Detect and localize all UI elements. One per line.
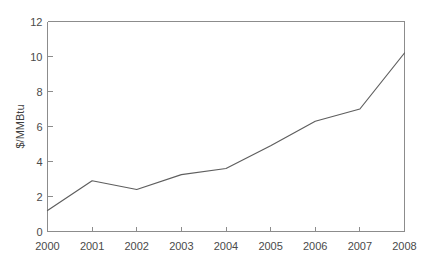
x-tick-label: 2006 <box>303 240 327 252</box>
y-tick-label: 10 <box>30 51 42 63</box>
chart-ticks <box>48 22 405 232</box>
y-axis-title: $/MMBtu <box>14 104 26 148</box>
line-chart: 024681012 200020012002200320042005200620… <box>0 0 427 265</box>
y-tick-label: 12 <box>30 16 42 28</box>
x-tick-label: 2002 <box>125 240 149 252</box>
chart-figure: 024681012 200020012002200320042005200620… <box>0 0 427 265</box>
y-tick-label: 0 <box>36 226 42 238</box>
x-axis-tick-labels: 200020012002200320042005200620072008 <box>35 240 416 252</box>
chart-axes <box>48 22 405 232</box>
y-tick-label: 2 <box>36 191 42 203</box>
x-tick-label: 2007 <box>348 240 372 252</box>
y-tick-label: 6 <box>36 121 42 133</box>
y-tick-label: 8 <box>36 86 42 98</box>
x-tick-label: 2005 <box>258 240 282 252</box>
x-tick-label: 2003 <box>169 240 193 252</box>
y-axis-title-text: $/MMBtu <box>14 104 26 148</box>
data-series-group <box>48 53 405 211</box>
x-tick-label: 2008 <box>392 240 416 252</box>
x-tick-label: 2004 <box>214 240 238 252</box>
y-axis-tick-labels: 024681012 <box>30 16 42 238</box>
x-tick-label: 2000 <box>35 240 59 252</box>
series-line <box>48 53 405 211</box>
x-tick-label: 2001 <box>80 240 104 252</box>
y-tick-label: 4 <box>36 156 42 168</box>
screenshot-root: natural gas prices, which have been risi… <box>0 0 427 265</box>
